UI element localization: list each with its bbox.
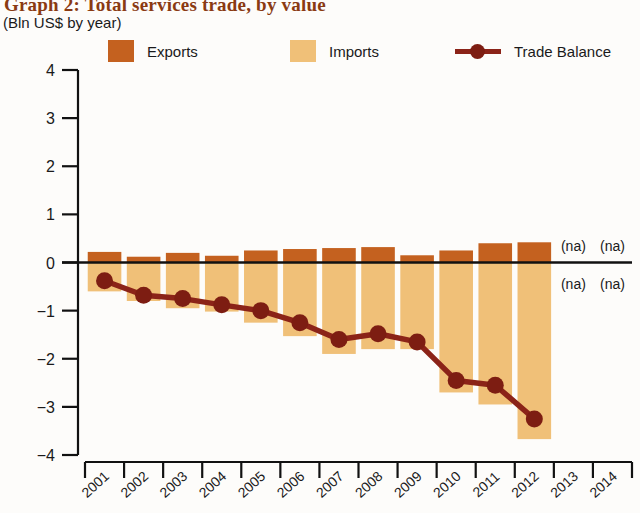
na-annotation: (na) <box>561 276 586 292</box>
x-axis-tick-label: 2011 <box>469 468 502 500</box>
trade-balance-data-point <box>370 325 387 342</box>
trade-balance-data-point <box>526 410 543 427</box>
y-axis-tick-label: −2 <box>37 351 55 368</box>
y-axis-tick-label: 0 <box>46 255 55 272</box>
na-annotation-layer: (na)(na)(na)(na) <box>561 238 625 292</box>
y-axis-tick-label: −4 <box>37 447 55 464</box>
trade-balance-data-point <box>409 333 426 350</box>
na-annotation: (na) <box>561 238 586 254</box>
x-axis-tick-label: 2010 <box>430 468 464 501</box>
trade-balance-line-group <box>96 272 543 427</box>
chart-svg: 43210−1−2−3−4200120022003200420052006200… <box>0 0 640 513</box>
exports-bar <box>439 250 473 262</box>
x-axis-tick-label: 2013 <box>547 468 581 501</box>
trade-balance-data-point <box>174 290 191 307</box>
trade-balance-data-point <box>135 287 152 304</box>
y-axis-tick-label: 2 <box>46 158 55 175</box>
x-axis-tick-label: 2007 <box>313 468 347 501</box>
na-annotation: (na) <box>600 276 625 292</box>
x-axis-tick-label: 2002 <box>117 468 151 501</box>
exports-bar <box>88 252 122 263</box>
exports-bar <box>244 250 278 262</box>
x-axis-tick-label: 2005 <box>235 468 269 501</box>
exports-bar <box>361 247 395 262</box>
x-axis-tick-label: 2001 <box>78 468 112 501</box>
x-axis-tick-label: 2009 <box>391 468 425 501</box>
exports-bar <box>166 253 200 263</box>
trade-balance-data-point <box>291 314 308 331</box>
trade-balance-data-point <box>487 377 504 394</box>
x-axis-tick-label: 2014 <box>586 468 620 501</box>
exports-bar <box>283 249 317 262</box>
y-axis-tick-label: 1 <box>46 206 55 223</box>
x-axis-tick-label: 2003 <box>156 468 190 501</box>
exports-bar <box>322 248 356 262</box>
x-axis-tick-label: 2004 <box>195 468 229 501</box>
trade-balance-data-point <box>96 272 113 289</box>
trade-balance-data-point <box>252 302 269 319</box>
trade-balance-data-point <box>213 296 230 313</box>
x-axis-tick-label: 2008 <box>352 468 386 501</box>
y-axis-tick-label: −3 <box>37 399 55 416</box>
y-axis-tick-label: 3 <box>46 110 55 127</box>
y-axis-tick-label: −1 <box>37 303 55 320</box>
x-axis-tick-label: 2012 <box>508 468 542 501</box>
trade-balance-data-point <box>448 372 465 389</box>
y-axis-tick-label: 4 <box>46 62 55 79</box>
x-axis-tick-label: 2006 <box>274 468 308 501</box>
chart-plot-area: 43210−1−2−3−4200120022003200420052006200… <box>0 0 640 513</box>
trade-balance-data-point <box>330 331 347 348</box>
imports-bar-group <box>88 263 551 440</box>
na-annotation: (na) <box>600 238 625 254</box>
exports-bar <box>518 242 552 262</box>
exports-bar-group <box>88 242 551 262</box>
exports-bar <box>478 243 512 262</box>
